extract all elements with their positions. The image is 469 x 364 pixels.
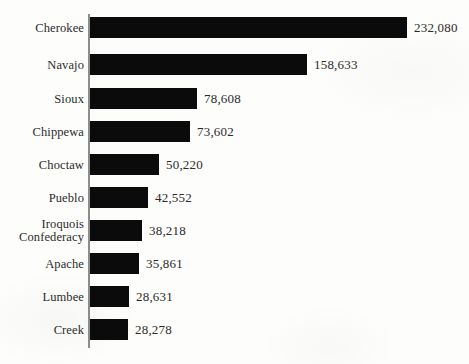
bar [90,286,129,307]
bar [90,121,190,142]
category-label: Navajo [47,58,84,71]
bar [90,154,159,175]
category-label: Iroquois Confederacy [19,218,84,244]
bar-row: Lumbee28,631 [0,286,469,307]
bar-row: Sioux78,608 [0,88,469,109]
value-label: 50,220 [166,157,203,173]
category-label: Choctaw [39,158,84,171]
value-label: 38,218 [149,223,186,239]
value-label: 158,633 [314,57,358,73]
bar [90,17,407,38]
bar-row: Apache35,861 [0,253,469,274]
category-label: Chippewa [33,125,84,138]
category-label: Creek [54,323,84,336]
value-label: 42,552 [155,190,192,206]
bar-row: Pueblo42,552 [0,187,469,208]
value-label: 35,861 [146,256,183,272]
bar-row: Iroquois Confederacy38,218 [0,220,469,241]
value-label: 232,080 [414,20,458,36]
category-label: Lumbee [42,290,84,303]
bar-chart: Cherokee232,080Navajo158,633Sioux78,608C… [0,0,469,364]
bar [90,54,307,75]
bar [90,187,148,208]
value-label: 73,602 [197,124,234,140]
bar-row: Cherokee232,080 [0,17,469,38]
bar [90,88,197,109]
category-label: Sioux [54,92,84,105]
bar [90,319,128,340]
category-label: Cherokee [35,21,84,34]
value-label: 28,631 [136,289,173,305]
bar [90,220,142,241]
bar-row: Creek28,278 [0,319,469,340]
category-label: Apache [45,257,84,270]
bar [90,253,139,274]
plot-area: Cherokee232,080Navajo158,633Sioux78,608C… [0,0,469,364]
bar-row: Choctaw50,220 [0,154,469,175]
value-label: 28,278 [135,322,172,338]
bar-row: Navajo158,633 [0,54,469,75]
category-label: Pueblo [49,191,84,204]
value-label: 78,608 [204,91,241,107]
bar-row: Chippewa73,602 [0,121,469,142]
